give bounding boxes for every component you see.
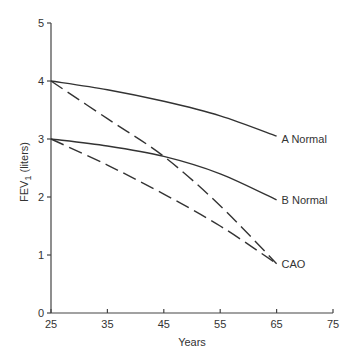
y-tick-label: 0 bbox=[38, 307, 44, 319]
x-tick-label: 75 bbox=[327, 318, 339, 330]
y-axis-label: FEV1 (liters) bbox=[18, 142, 33, 202]
x-tick-label: 55 bbox=[214, 318, 226, 330]
line-label: B Normal bbox=[282, 194, 328, 206]
series-lines bbox=[51, 81, 277, 264]
y-tick-label: 1 bbox=[38, 249, 44, 261]
axes: 012345253545556575 bbox=[38, 17, 339, 330]
x-tick-label: 25 bbox=[45, 318, 57, 330]
y-tick-label: 3 bbox=[38, 133, 44, 145]
x-tick-label: 35 bbox=[101, 318, 113, 330]
x-tick-label: 65 bbox=[270, 318, 282, 330]
series-line bbox=[51, 81, 277, 264]
y-tick-label: 5 bbox=[38, 17, 44, 29]
series-line bbox=[51, 139, 277, 264]
series-line bbox=[51, 81, 277, 136]
x-tick-label: 45 bbox=[158, 318, 170, 330]
line-label: CAO bbox=[282, 258, 306, 270]
x-axis-label: Years bbox=[178, 336, 206, 348]
y-tick-label: 4 bbox=[38, 75, 44, 87]
series-line bbox=[51, 139, 277, 200]
line-label: A Normal bbox=[282, 133, 327, 145]
line-labels: A NormalB NormalCAO bbox=[282, 133, 328, 270]
y-tick-label: 2 bbox=[38, 191, 44, 203]
chart: 012345253545556575 A NormalB NormalCAO Y… bbox=[0, 0, 357, 359]
